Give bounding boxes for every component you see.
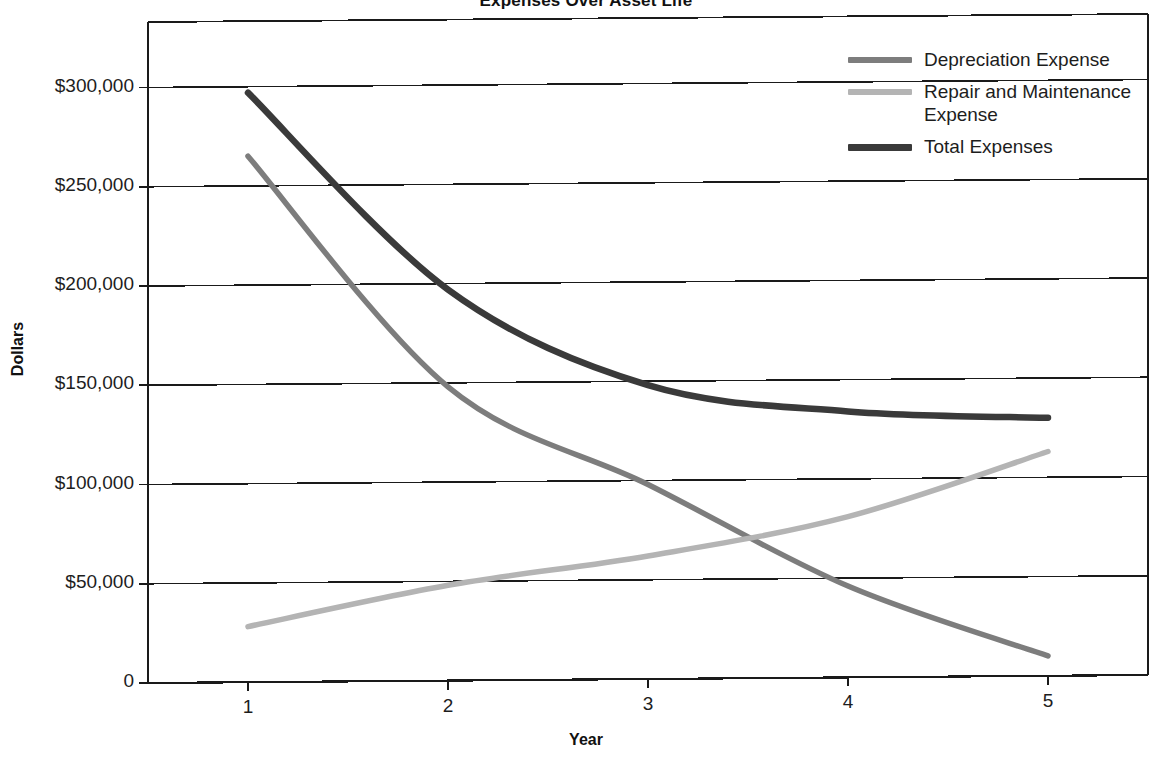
gridline	[148, 278, 1148, 286]
x-axis-title: Year	[0, 731, 1172, 749]
legend-color-swatch	[848, 89, 912, 95]
y-tick-label: $150,000	[16, 372, 134, 394]
chart-container: Expenses Over Asset Life 0$50,000$100,00…	[0, 0, 1172, 764]
y-tick-label: $50,000	[16, 571, 134, 593]
x-tick-label: 4	[828, 691, 868, 713]
x-tick-label: 2	[428, 695, 468, 717]
y-axis-title: Dollars	[9, 299, 27, 399]
y-tick-label: $300,000	[16, 75, 134, 97]
legend-color-swatch	[848, 57, 912, 63]
legend-item[interactable]: Repair and Maintenance Expense	[848, 80, 1158, 126]
legend-color-swatch	[848, 144, 912, 151]
y-tick-label: $100,000	[16, 472, 134, 494]
data-series-group	[248, 93, 1048, 656]
chart-legend: Depreciation ExpenseRepair and Maintenan…	[848, 48, 1158, 167]
legend-item[interactable]: Total Expenses	[848, 135, 1158, 158]
legend-label: Total Expenses	[924, 135, 1053, 158]
x-tick-label: 5	[1028, 690, 1068, 712]
axis-ticks-group	[139, 88, 1048, 692]
y-tick-label: $200,000	[16, 273, 134, 295]
x-tick-label: 1	[228, 696, 268, 718]
gridline	[148, 179, 1148, 187]
legend-item[interactable]: Depreciation Expense	[848, 48, 1158, 71]
series-line-depreciation-expense	[248, 156, 1048, 656]
gridline	[148, 576, 1148, 584]
legend-label: Repair and Maintenance Expense	[924, 80, 1158, 126]
plot-top-border	[148, 14, 1148, 22]
y-tick-label: 0	[16, 670, 134, 692]
legend-label: Depreciation Expense	[924, 48, 1110, 71]
y-tick-label: $250,000	[16, 174, 134, 196]
x-tick-label: 3	[628, 693, 668, 715]
